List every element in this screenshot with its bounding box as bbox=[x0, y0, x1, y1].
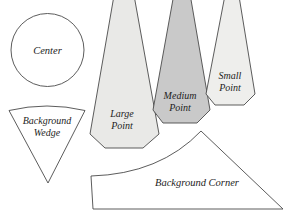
medium-point-label-line1: Medium bbox=[163, 90, 197, 101]
background-wedge-label-line1: Background bbox=[23, 115, 73, 126]
small-point-label-line2: Point bbox=[218, 82, 241, 93]
shape-medium-point[interactable]: Medium Point bbox=[153, 0, 210, 123]
background-corner-label: Background Corner bbox=[155, 177, 240, 188]
shape-large-point[interactable]: Large Point bbox=[90, 0, 159, 148]
large-point-label-line1: Large bbox=[109, 108, 134, 119]
pattern-canvas: Center Background Wedge Large Point Medi… bbox=[0, 0, 283, 211]
shape-small-point[interactable]: Small Point bbox=[206, 0, 255, 105]
small-point-label-line1: Small bbox=[219, 70, 242, 81]
pattern-sheet: Center Background Wedge Large Point Medi… bbox=[0, 0, 283, 211]
center-label: Center bbox=[33, 45, 62, 56]
shape-center[interactable]: Center bbox=[11, 14, 84, 87]
shape-background-wedge[interactable]: Background Wedge bbox=[9, 106, 85, 183]
background-wedge-label-line2: Wedge bbox=[34, 127, 61, 138]
large-point-label-line2: Point bbox=[110, 120, 133, 131]
medium-point-label-line2: Point bbox=[168, 102, 191, 113]
